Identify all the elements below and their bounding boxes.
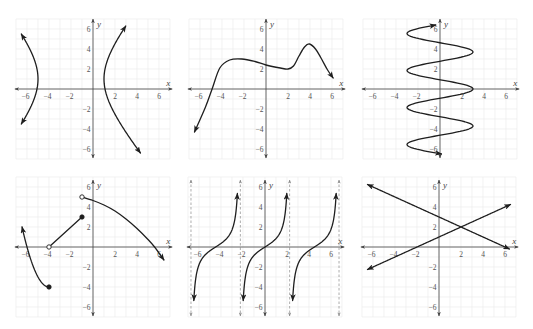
x-axis-label: x [511,236,516,246]
x-axis-label: x [512,78,517,88]
x-tick-label: 2 [113,250,117,259]
y-tick-label: 6 [87,25,91,34]
y-tick-label: −4 [256,125,264,134]
y-tick-label: −2 [83,105,91,114]
y-axis-label: y [442,180,447,190]
y-tick-label: −2 [429,263,437,272]
function-curve [49,217,82,247]
x-tick-label: −4 [44,92,52,101]
y-tick-label: 6 [260,25,264,34]
filled-endpoint-dot [47,285,51,289]
y-tick-label: 6 [434,25,438,34]
filled-endpoint-dot [80,215,84,219]
x-tick-label: 2 [459,250,463,259]
x-tick-label: 2 [285,250,289,259]
y-tick-label: 6 [259,183,263,192]
y-tick-label: 4 [259,203,263,212]
x-tick-label: 2 [460,92,464,101]
graph-panel-3-sinusoid: −6−4−2246−6−4−2246xy [355,0,533,165]
y-tick-label: −4 [255,283,263,292]
y-tick-label: 2 [259,223,263,232]
open-endpoint-dot [80,195,84,199]
graph-panel-4-piecewise: −6−4−2246−6−4−2246xy [0,165,178,329]
x-tick-label: −2 [66,250,74,259]
y-tick-label: 6 [87,183,91,192]
function-curve [82,197,164,260]
x-tick-label: −4 [217,92,225,101]
x-tick-label: −2 [66,92,74,101]
y-tick-label: −6 [83,145,91,154]
x-axis-label: x [338,78,343,88]
y-tick-label: −4 [83,125,91,134]
function-curve [104,26,140,153]
x-tick-label: 6 [504,92,508,101]
x-tick-label: −2 [412,250,420,259]
x-tick-label: −6 [22,92,30,101]
x-tick-label: 6 [329,250,333,259]
x-tick-label: −6 [194,250,202,259]
y-tick-label: 2 [87,223,91,232]
x-tick-label: 6 [157,92,161,101]
y-axis-label: y [269,19,274,29]
y-tick-label: −2 [430,105,438,114]
y-tick-label: 4 [260,45,264,54]
y-tick-label: 4 [87,203,91,212]
y-tick-label: −6 [83,303,91,312]
x-tick-label: 4 [481,250,485,259]
y-tick-label: −2 [256,105,264,114]
y-tick-label: −4 [430,125,438,134]
x-tick-label: −2 [413,92,421,101]
y-tick-label: 2 [260,65,264,74]
y-axis-label: y [96,19,101,29]
y-tick-label: 4 [434,45,438,54]
x-tick-label: 4 [482,92,486,101]
y-axis-label: y [96,180,101,190]
x-axis-label: x [165,78,170,88]
x-tick-label: 6 [503,250,507,259]
graph-panel-6-lines: −6−4−2246−6−4−2246xy [355,165,533,329]
y-tick-label: −2 [83,263,91,272]
y-tick-label: −2 [255,263,263,272]
y-tick-label: 6 [433,183,437,192]
x-tick-label: 2 [286,92,290,101]
y-tick-label: −4 [429,283,437,292]
x-axis-label: x [337,236,342,246]
y-tick-label: 2 [434,65,438,74]
graph-panel-1-hyperbola: −6−4−2246−6−4−2246xy [0,0,178,165]
graph-panel-2-curve: −6−4−2246−6−4−2246xy [178,0,356,165]
y-tick-label: 4 [87,45,91,54]
x-tick-label: 2 [113,92,117,101]
x-tick-label: 6 [330,92,334,101]
y-axis-label: y [268,180,273,190]
x-tick-label: −6 [195,92,203,101]
x-axis-label: x [165,236,170,246]
x-tick-label: −4 [391,92,399,101]
y-axis-label: y [443,19,448,29]
graph-panel-5-tangent: −6−4−2246−6−4−2246xy [178,165,356,329]
y-tick-label: −6 [256,145,264,154]
x-tick-label: 4 [135,250,139,259]
x-tick-label: −4 [216,250,224,259]
x-tick-label: −2 [238,250,246,259]
open-endpoint-dot [47,245,51,249]
y-tick-label: −4 [83,283,91,292]
x-tick-label: −4 [44,250,52,259]
y-tick-label: 2 [87,65,91,74]
x-tick-label: 4 [135,92,139,101]
y-tick-label: −6 [429,303,437,312]
y-tick-label: 2 [433,223,437,232]
x-tick-label: −6 [369,92,377,101]
x-tick-label: −2 [239,92,247,101]
x-tick-label: 4 [308,92,312,101]
x-tick-label: −6 [368,250,376,259]
y-tick-label: 4 [433,203,437,212]
y-tick-label: −6 [255,303,263,312]
